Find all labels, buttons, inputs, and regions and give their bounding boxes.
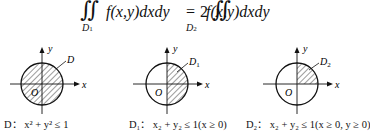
- x-axis-label: x: [334, 79, 340, 90]
- origin-label: O: [155, 87, 162, 98]
- caption-d: D： x² + y² ≤ 1: [4, 116, 68, 131]
- rhs-region-label: D2: [186, 22, 197, 33]
- x-axis-label: x: [81, 79, 87, 90]
- integral-equation: ∬ D1 f(x,y)dxdy = 2 ∬ D2 f(x,y)dxdy: [0, 0, 369, 34]
- lhs-integrand: f(x,y)dxdy: [106, 3, 170, 21]
- double-integral-sign-lhs: ∬: [80, 0, 90, 22]
- diagram-quarter-disk: y x O D2 D₂： x₂ + y₂ ≤ 1(x ≥ 0, y ≥ 0): [246, 34, 369, 140]
- diagram-full-disk: y x O D D： x² + y² ≤ 1: [0, 34, 123, 140]
- caption-d1: D₁： x₂ + y₂ ≤ 1(x ≥ 0): [129, 116, 227, 131]
- lhs-region-subscript: 1: [89, 25, 93, 33]
- region-label-d: D: [66, 54, 75, 65]
- origin-label: O: [31, 87, 38, 98]
- rhs-region-subscript: 2: [193, 25, 197, 33]
- half-disk-plot: y x O D1: [125, 34, 248, 114]
- full-disk-plot: y x O D: [0, 34, 123, 114]
- caption-d2: D₂： x₂ + y₂ ≤ 1(x ≥ 0, y ≥ 0): [246, 116, 370, 131]
- region-label-d2: D2: [319, 56, 331, 69]
- region-label-d1: D1: [188, 56, 200, 69]
- y-axis-label: y: [47, 43, 53, 54]
- lhs-region-label: D1: [82, 22, 93, 33]
- quarter-disk-plot: y x O D2: [246, 34, 369, 114]
- diagram-right-half-disk: y x O D1 D₁： x₂ + y₂ ≤ 1(x ≥ 0): [125, 34, 248, 140]
- x-axis-label: x: [204, 79, 210, 90]
- rhs-integrand: f(x,y)dxdy: [206, 3, 270, 21]
- origin-label: O: [285, 87, 292, 98]
- y-axis-label: y: [302, 43, 308, 54]
- y-axis-label: y: [172, 43, 178, 54]
- equals-sign: =: [186, 3, 195, 21]
